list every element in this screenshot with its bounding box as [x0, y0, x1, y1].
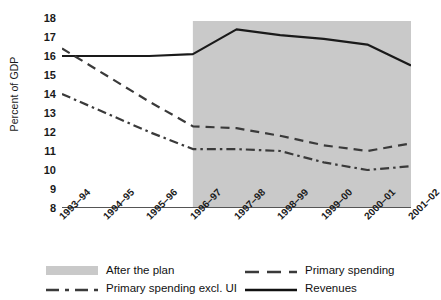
legend-label: Revenues [305, 282, 357, 294]
y-axis-tick: 9 [34, 184, 56, 195]
legend-item-revenues: Revenues [245, 282, 357, 294]
legend-label: Primary spending excl. UI [106, 282, 237, 294]
y-axis-label: Percent of GDP [8, 39, 20, 149]
legend-label: Primary spending [305, 264, 394, 276]
y-axis-tick: 13 [34, 108, 56, 119]
y-axis-tick: 8 [34, 203, 56, 214]
y-axis-tick: 14 [34, 89, 56, 100]
y-axis-tick: 11 [34, 146, 56, 157]
plot-svg [62, 18, 411, 208]
dashed-line-icon [245, 264, 297, 276]
y-axis-tick: 15 [34, 70, 56, 81]
y-axis-tick: 17 [34, 32, 56, 43]
legend-label: After the plan [106, 264, 174, 276]
dash-dot-line-icon [46, 282, 98, 294]
y-axis-tick: 16 [34, 51, 56, 62]
plot-area [62, 18, 411, 208]
legend-item-primary-spending: Primary spending [245, 264, 394, 276]
y-axis-tick: 18 [34, 13, 56, 24]
y-axis-tick: 12 [34, 127, 56, 138]
solid-line-icon [245, 282, 297, 294]
y-axis-tick: 10 [34, 165, 56, 176]
legend-item-after-the-plan: After the plan [46, 264, 174, 276]
shaded-swatch-icon [46, 264, 98, 276]
legend-item-primary-spending-excl-ui: Primary spending excl. UI [46, 282, 237, 294]
x-axis-tick: 2001–02 [406, 186, 441, 221]
